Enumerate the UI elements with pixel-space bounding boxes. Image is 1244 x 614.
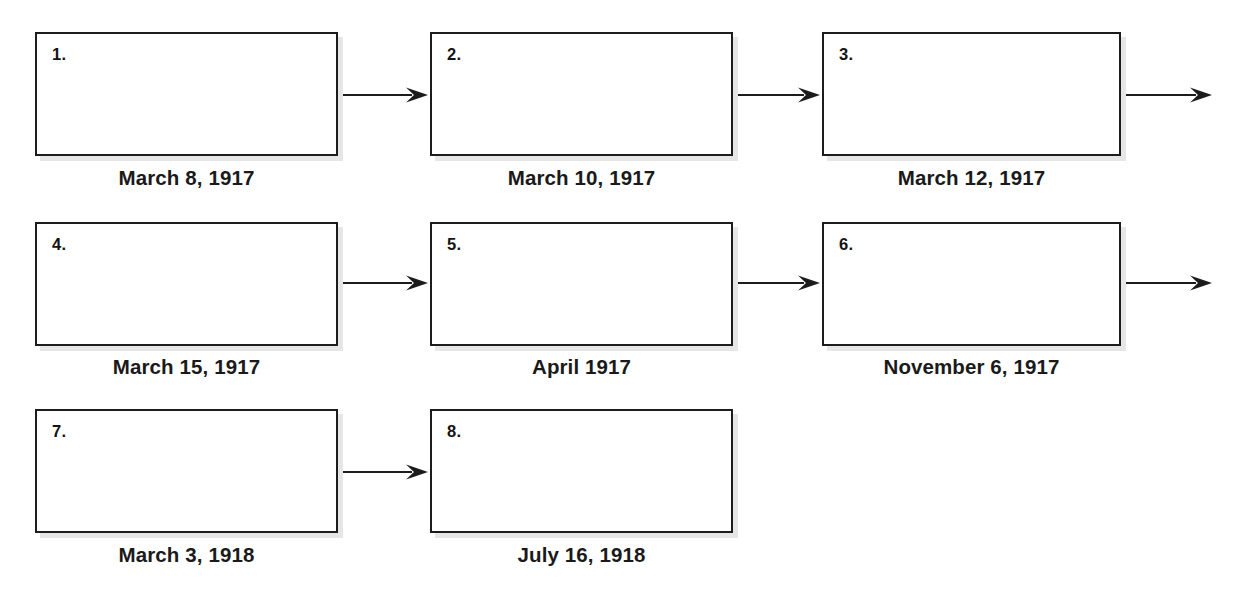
- box-answer-area[interactable]: [52, 262, 326, 336]
- timeline-box-4[interactable]: 4.: [35, 222, 338, 346]
- box-number-label: 3.: [839, 46, 853, 63]
- box-number-label: 5.: [447, 236, 461, 253]
- box-answer-area[interactable]: [52, 449, 326, 523]
- timeline-date-label: April 1917: [430, 357, 733, 378]
- timeline-box-8[interactable]: 8.: [430, 409, 733, 533]
- arrow-3-out-icon: [1121, 88, 1212, 103]
- timeline-box-7[interactable]: 7.: [35, 409, 338, 533]
- box-answer-area[interactable]: [447, 262, 721, 336]
- box-number-label: 8.: [447, 423, 461, 440]
- arrow-2-to-3-icon: [733, 88, 820, 103]
- timeline-date-label: March 12, 1917: [822, 168, 1121, 189]
- timeline-date-label: July 16, 1918: [430, 545, 733, 566]
- box-number-label: 6.: [839, 236, 853, 253]
- box-answer-area[interactable]: [447, 449, 721, 523]
- timeline-box-5[interactable]: 5.: [430, 222, 733, 346]
- timeline-date-label: March 15, 1917: [35, 357, 338, 378]
- timeline-box-6[interactable]: 6.: [822, 222, 1121, 346]
- timeline-flowchart: 1.March 8, 19172.March 10, 19173.March 1…: [0, 0, 1244, 614]
- timeline-date-label: March 10, 1917: [430, 168, 733, 189]
- timeline-box-3[interactable]: 3.: [822, 32, 1121, 156]
- timeline-box-1[interactable]: 1.: [35, 32, 338, 156]
- arrow-4-to-5-icon: [338, 276, 428, 291]
- timeline-box-2[interactable]: 2.: [430, 32, 733, 156]
- box-answer-area[interactable]: [839, 262, 1109, 336]
- box-answer-area[interactable]: [52, 72, 326, 146]
- timeline-date-label: March 3, 1918: [35, 545, 338, 566]
- timeline-date-label: November 6, 1917: [822, 357, 1121, 378]
- box-answer-area[interactable]: [447, 72, 721, 146]
- arrow-5-to-6-icon: [733, 276, 820, 291]
- box-number-label: 4.: [52, 236, 66, 253]
- box-number-label: 7.: [52, 423, 66, 440]
- arrow-6-out-icon: [1121, 276, 1212, 291]
- box-answer-area[interactable]: [839, 72, 1109, 146]
- timeline-date-label: March 8, 1917: [35, 168, 338, 189]
- box-number-label: 2.: [447, 46, 461, 63]
- arrow-7-to-8-icon: [338, 465, 428, 480]
- arrow-1-to-2-icon: [338, 88, 428, 103]
- box-number-label: 1.: [52, 46, 66, 63]
